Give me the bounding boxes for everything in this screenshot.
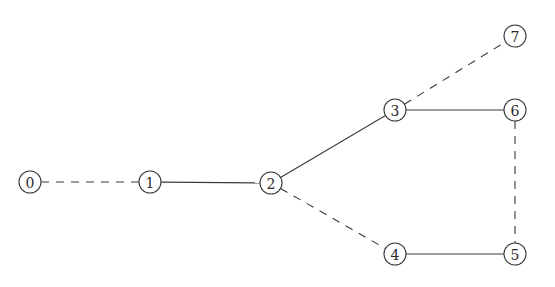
edge-3-7	[404, 42, 505, 104]
node-label: 0	[26, 175, 35, 191]
edge-2-4	[281, 188, 386, 248]
node-5: 5	[504, 243, 526, 265]
node-7: 7	[504, 25, 526, 47]
graph-diagram: 01234567	[0, 0, 555, 287]
edges-layer	[41, 42, 515, 254]
node-6: 6	[504, 99, 526, 121]
node-3: 3	[384, 99, 406, 121]
edge-2-3	[280, 116, 385, 178]
node-label: 7	[511, 29, 520, 45]
graph-canvas: 01234567	[0, 0, 555, 287]
node-2: 2	[260, 172, 282, 194]
node-4: 4	[384, 243, 406, 265]
edge-1-2	[161, 182, 260, 183]
node-label: 2	[267, 176, 276, 192]
node-label: 5	[511, 247, 520, 263]
node-label: 1	[146, 175, 155, 191]
node-label: 3	[391, 103, 400, 119]
nodes-layer: 01234567	[19, 25, 526, 265]
node-label: 6	[511, 103, 520, 119]
node-label: 4	[391, 247, 400, 263]
node-0: 0	[19, 171, 41, 193]
node-1: 1	[139, 171, 161, 193]
